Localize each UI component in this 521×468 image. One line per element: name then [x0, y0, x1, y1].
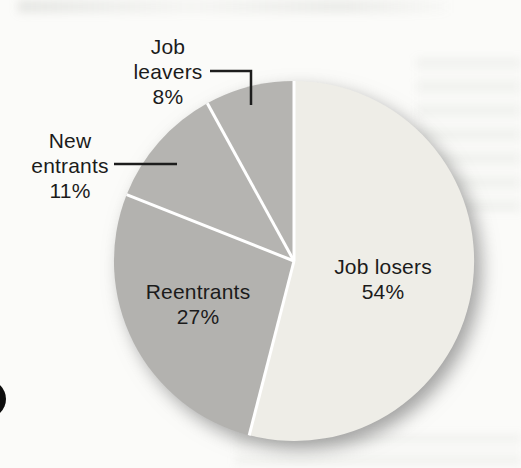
- slice-pct-text: 54%: [334, 279, 432, 304]
- label-new-entrants: New entrants 11%: [31, 128, 108, 203]
- slice-label-text: Job losers: [334, 254, 432, 279]
- slice-pct-text: 27%: [146, 304, 251, 329]
- label-job-leavers: Job leavers 8%: [133, 34, 202, 109]
- scanned-page: Job leavers 8% New entrants 11% Reentran…: [0, 0, 521, 468]
- label-reentrants: Reentrants 27%: [146, 279, 251, 329]
- slice-pct-text: 11%: [31, 178, 108, 203]
- slice-label-line: Job: [133, 34, 202, 59]
- slice-label-line: leavers: [133, 59, 202, 84]
- page-edge-bullet: [0, 380, 6, 418]
- slice-label-line: New: [31, 128, 108, 153]
- slice-label-text: Reentrants: [146, 279, 251, 304]
- slice-pct-text: 8%: [133, 84, 202, 109]
- slice-label-line: entrants: [31, 153, 108, 178]
- label-job-losers: Job losers 54%: [334, 254, 432, 304]
- pie-chart: [0, 0, 521, 468]
